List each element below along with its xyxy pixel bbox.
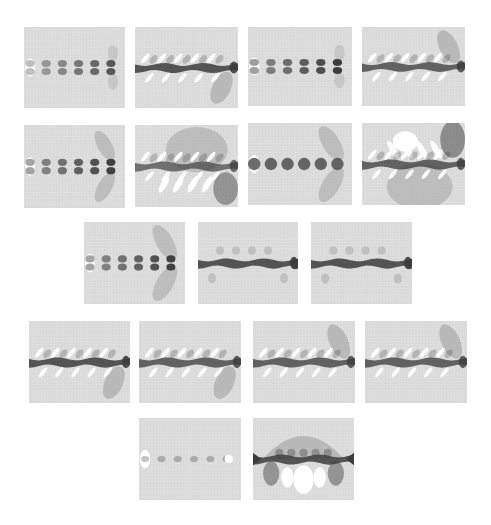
simulation-panel bbox=[29, 321, 130, 403]
simulation-panel bbox=[135, 27, 238, 108]
simulation-panel bbox=[135, 125, 238, 207]
simulation-panel bbox=[139, 321, 241, 403]
simulation-panel bbox=[362, 123, 465, 205]
simulation-panel bbox=[362, 27, 465, 106]
figure-panel-grid bbox=[0, 0, 491, 525]
simulation-panel bbox=[84, 222, 185, 304]
simulation-panel bbox=[248, 123, 352, 205]
simulation-panel bbox=[253, 418, 354, 500]
simulation-panel bbox=[248, 27, 352, 106]
simulation-panel bbox=[365, 321, 467, 403]
simulation-panel bbox=[253, 321, 355, 403]
simulation-panel bbox=[198, 222, 298, 304]
simulation-panel bbox=[24, 27, 125, 108]
simulation-panel bbox=[24, 125, 125, 208]
simulation-panel bbox=[311, 222, 412, 304]
simulation-panel bbox=[139, 418, 241, 500]
